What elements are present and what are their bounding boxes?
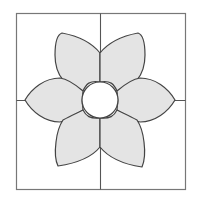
center-circle — [82, 82, 118, 118]
flower-svg — [0, 0, 197, 200]
flower-diagram — [0, 0, 197, 200]
